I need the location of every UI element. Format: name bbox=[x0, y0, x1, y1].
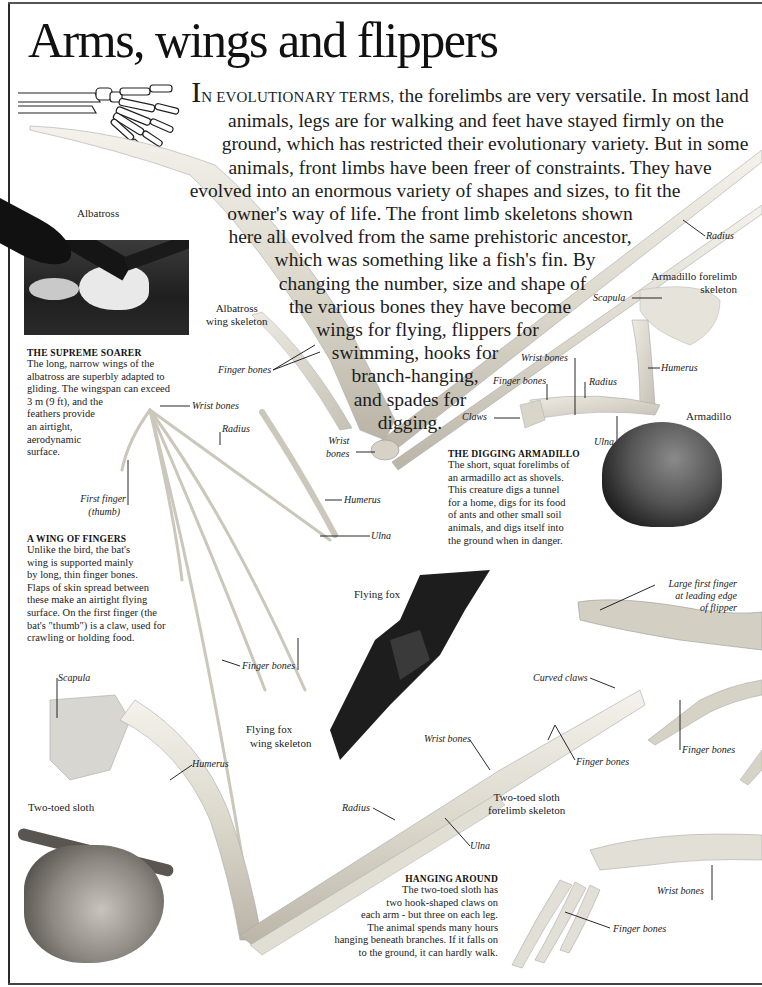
intro-line: ground, which has restricted their evolu… bbox=[180, 132, 760, 155]
label-line: at leading edge bbox=[640, 590, 737, 602]
intro-line: animals, front limbs have been freer of … bbox=[180, 156, 760, 179]
caption-line: wing skeleton bbox=[246, 736, 311, 750]
box-line: each arm - but three on each leg. bbox=[305, 909, 498, 922]
label-sloth-ulna: Ulna bbox=[470, 840, 490, 851]
box-body: The two-toed sloth has two hook-shaped c… bbox=[305, 884, 498, 960]
box-line: the ground when in danger. bbox=[448, 535, 608, 548]
box-body: Unlike the bird, the bat's wing is suppo… bbox=[27, 544, 197, 645]
intro-line: animals, legs are for walking and feet h… bbox=[180, 109, 760, 132]
box-line: The long, narrow wings of the bbox=[27, 358, 192, 371]
book-page: Arms, wings and flippers IN EVOLUTIONARY… bbox=[0, 0, 762, 987]
label-bat-humerus: Humerus bbox=[344, 494, 381, 505]
flying-fox-photo-caption: Flying fox bbox=[354, 588, 400, 600]
label-line: bones bbox=[316, 447, 349, 460]
intro-line: here all evolved from the same prehistor… bbox=[100, 225, 760, 248]
label-sloth-curved-claws: Curved claws bbox=[533, 672, 588, 683]
box-line: 3 m (9 ft), and the bbox=[27, 396, 192, 409]
box-line: This creature digs a tunnel bbox=[448, 484, 608, 497]
label-bat-finger-bones: Finger bones bbox=[242, 660, 295, 671]
box-line: animals, and digs itself into bbox=[448, 522, 608, 535]
box-line: two hook-shaped claws on bbox=[305, 897, 498, 910]
box-line: an armadillo act as shovels. bbox=[448, 472, 608, 485]
label-armadillo-claws: Claws bbox=[462, 411, 487, 422]
label-armadillo-ulna: Ulna bbox=[594, 436, 614, 447]
dropcap: I bbox=[191, 75, 201, 108]
armadillo-skeleton-caption: Armadillo forelimb skeleton bbox=[620, 270, 737, 296]
supreme-soarer-box: THE SUPREME SOARER The long, narrow wing… bbox=[27, 348, 192, 459]
box-line: Unlike the bird, the bat's bbox=[27, 544, 197, 557]
wing-of-fingers-box: A WING OF FINGERS Unlike the bird, the b… bbox=[27, 534, 197, 645]
page-title: Arms, wings and flippers bbox=[28, 10, 498, 70]
intro-paragraph: IN EVOLUTIONARY TERMS, the forelimbs are… bbox=[180, 82, 760, 434]
label-bat-ulna: Ulna bbox=[371, 530, 391, 541]
box-body: The short, squat forelimbs of an armadil… bbox=[448, 459, 608, 547]
box-line: to the ground, it can hardly walk. bbox=[305, 947, 498, 960]
caption-line: wing skeleton bbox=[206, 315, 267, 328]
box-body: The long, narrow wings of the albatross … bbox=[27, 358, 192, 459]
flying-fox-skeleton-caption: Flying fox wing skeleton bbox=[246, 722, 311, 750]
box-line: hanging beneath branches. If it falls on bbox=[305, 934, 498, 947]
label-flipper-finger-bones: Finger bones bbox=[682, 744, 735, 755]
two-toed-sloth-photo bbox=[16, 825, 181, 970]
box-line: for a home, digs for its food bbox=[448, 497, 608, 510]
intro-line: the various bones they have become bbox=[100, 295, 760, 318]
sloth-photo-caption: Two-toed sloth bbox=[28, 801, 94, 813]
label-armadillo-scapula: Scapula bbox=[593, 292, 625, 303]
box-title: HANGING AROUND bbox=[305, 874, 498, 884]
sloth-skeleton-caption: Two-toed sloth forelimb skeleton bbox=[488, 791, 565, 817]
digging-armadillo-box: THE DIGGING ARMADILLO The short, squat f… bbox=[448, 449, 608, 547]
label-sloth-humerus: Humerus bbox=[192, 758, 229, 769]
label-large-first-finger: Large first finger at leading edge of fl… bbox=[640, 578, 737, 614]
intro-smallcaps: N EVOLUTIONARY TERMS, bbox=[201, 89, 394, 105]
intro-line: evolved into an enormous variety of shap… bbox=[110, 179, 760, 202]
label-armadillo-wrist-bones: Wrist bones bbox=[521, 352, 568, 363]
intro-line: which was something like a fish's fin. B… bbox=[110, 248, 760, 271]
intro-text: the forelimbs are very versatile. In mos… bbox=[394, 85, 749, 106]
armadillo-photo bbox=[602, 422, 722, 527]
box-line: The two-toed sloth has bbox=[305, 884, 498, 897]
box-line: bat's "thumb") is a claw, used for bbox=[27, 620, 197, 633]
label-sloth-scapula: Scapula bbox=[58, 672, 90, 683]
label-radius-top-right: Radius bbox=[706, 230, 734, 241]
label-hand-wrist-bones: Wrist bones bbox=[657, 885, 704, 896]
label-albatross-finger-bones: Finger bones bbox=[218, 364, 271, 375]
armadillo-photo-caption: Armadillo bbox=[686, 410, 731, 422]
box-line: these make an airtight flying bbox=[27, 594, 197, 607]
caption-line: Albatross bbox=[206, 302, 267, 315]
label-line: of flipper bbox=[640, 602, 737, 614]
box-line: Flaps of skin spread between bbox=[27, 582, 197, 595]
label-sloth-wrist-bones: Wrist bones bbox=[424, 733, 471, 744]
box-line: by long, thin finger bones. bbox=[27, 569, 197, 582]
label-sloth-radius: Radius bbox=[342, 802, 370, 813]
box-title: A WING OF FINGERS bbox=[27, 534, 197, 544]
box-line: The animal spends many hours bbox=[305, 922, 498, 935]
box-line: albatross are superbly adapted to bbox=[27, 371, 192, 384]
box-line: wing is supported mainly bbox=[27, 557, 197, 570]
intro-line: owner's way of life. The front limb skel… bbox=[100, 202, 760, 225]
label-line: Large first finger bbox=[640, 578, 737, 590]
albatross-skeleton-caption: Albatross wing skeleton bbox=[206, 302, 267, 328]
box-line: aerodynamic bbox=[27, 434, 192, 447]
box-title: THE SUPREME SOARER bbox=[27, 348, 192, 358]
box-line: crawling or holding food. bbox=[27, 632, 197, 645]
label-hand-finger-bones: Finger bones bbox=[613, 923, 666, 934]
box-line: The short, squat forelimbs of bbox=[448, 459, 608, 472]
box-line: feathers provide bbox=[27, 408, 192, 421]
label-armadillo-humerus: Humerus bbox=[661, 362, 698, 373]
box-line: an airtight, bbox=[27, 421, 192, 434]
caption-line: forelimb skeleton bbox=[488, 804, 565, 817]
intro-line: wings for flying, flippers for bbox=[95, 318, 760, 341]
label-bat-wrist-bones: Wrist bones bbox=[192, 400, 239, 411]
hanging-around-box: HANGING AROUND The two-toed sloth has tw… bbox=[305, 874, 498, 960]
box-line: of ants and other small soil bbox=[448, 509, 608, 522]
box-line: surface. On the first finger (the bbox=[27, 607, 197, 620]
caption-line: Flying fox bbox=[246, 722, 311, 736]
label-line: (thumb) bbox=[60, 505, 126, 518]
intro-line: IN EVOLUTIONARY TERMS, the forelimbs are… bbox=[180, 82, 760, 109]
albatross-photo-caption: Albatross bbox=[77, 207, 119, 219]
caption-line: Armadillo forelimb bbox=[620, 270, 737, 283]
label-sloth-finger-bones: Finger bones bbox=[576, 756, 629, 767]
box-line: surface. bbox=[27, 446, 192, 459]
label-armadillo-finger-bones: Finger bones bbox=[493, 375, 546, 386]
caption-line: Two-toed sloth bbox=[488, 791, 565, 804]
